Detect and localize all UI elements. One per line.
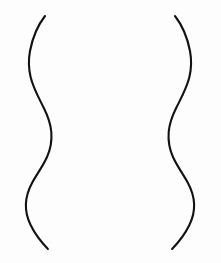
drawing-canvas [0, 0, 221, 263]
hourglass-contour-figure [0, 0, 221, 263]
